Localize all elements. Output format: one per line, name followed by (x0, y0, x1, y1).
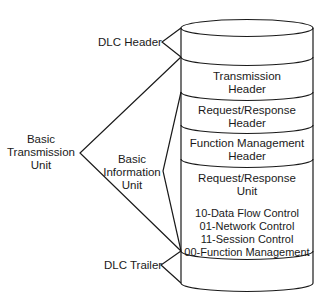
band-text: Transmission (181, 70, 313, 83)
band-text: Header (181, 117, 313, 130)
label-biu: Basic Information Unit (103, 153, 161, 192)
cylinder-bottom (181, 283, 313, 292)
label-btu-line-3: Unit (6, 159, 76, 172)
bracket-dlc-trailer (161, 251, 181, 283)
band-text: Header (181, 150, 313, 163)
bracket-biu (163, 92, 181, 251)
band-transmission-header: Transmission Header (181, 70, 313, 96)
band-text: Request/Response (181, 104, 313, 117)
label-dlc-header: DLC Header (98, 36, 162, 49)
band-spacer (181, 198, 313, 207)
band-text: Header (181, 83, 313, 96)
label-biu-line-2: Information (103, 166, 161, 179)
label-biu-line-3: Unit (103, 179, 161, 192)
band-text: Unit (181, 185, 313, 198)
ru-category-data-flow: 10-Data Flow Control (181, 207, 313, 220)
label-biu-line-1: Basic (103, 153, 161, 166)
label-btu-line-1: Basic (6, 133, 76, 146)
ru-category-network: 01-Network Control (181, 220, 313, 233)
label-dlc-trailer: DLC Trailer (104, 259, 162, 272)
band-rr-header: Request/Response Header (181, 104, 313, 130)
divider-dlc-header (181, 57, 313, 66)
label-btu-line-2: Transmission (6, 146, 76, 159)
band-text: Function Management (181, 137, 313, 150)
bracket-dlc-header (162, 28, 181, 57)
ru-category-function-mgmt: 00-Function Management (181, 246, 313, 259)
band-fm-header: Function Management Header (181, 137, 313, 163)
ru-category-session: 11-Session Control (181, 233, 313, 246)
band-ru: Request/Response Unit 10-Data Flow Contr… (181, 172, 313, 259)
cylinder-top (181, 20, 313, 37)
label-btu: Basic Transmission Unit (6, 133, 76, 172)
band-text: Request/Response (181, 172, 313, 185)
